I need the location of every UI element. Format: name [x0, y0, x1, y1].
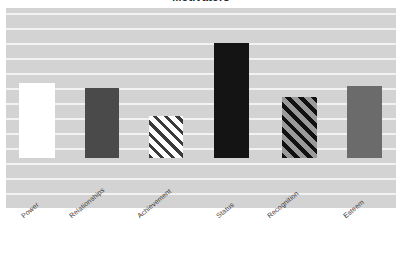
x-axis-labels: Power Relationships Achievement Status R…: [0, 208, 402, 258]
bars-layer: [0, 0, 402, 208]
bar-recognition[interactable]: [282, 97, 317, 158]
bar-status[interactable]: [214, 43, 249, 158]
bar-relationships[interactable]: [85, 88, 119, 158]
bar-chart: Motivators Power Relationships Achievem: [0, 0, 402, 258]
bar-power[interactable]: [19, 83, 55, 158]
bar-esteem[interactable]: [347, 86, 382, 158]
bar-achievement[interactable]: [149, 116, 183, 158]
